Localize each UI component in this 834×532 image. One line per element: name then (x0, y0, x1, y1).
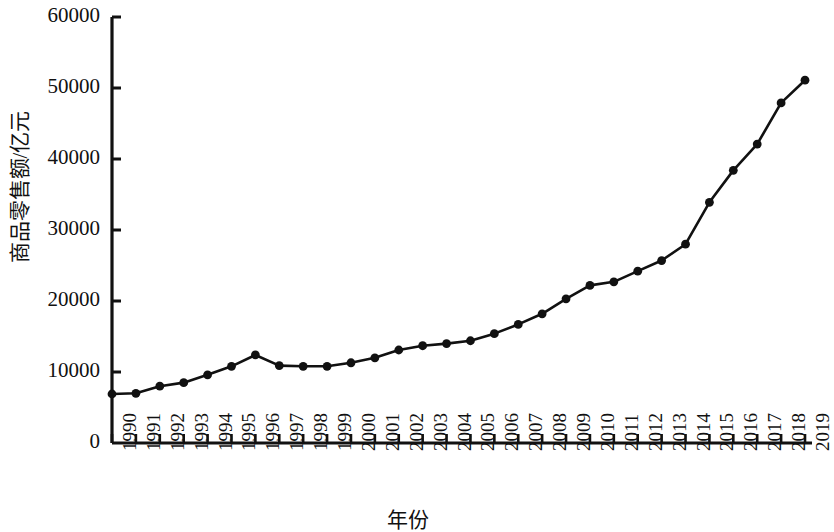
data-point (753, 140, 762, 149)
y-axis-title: 商品零售额/亿元 (3, 77, 33, 297)
y-axis-tick-label: 10000 (8, 358, 100, 383)
data-point (418, 341, 427, 350)
x-axis-tick-label: 2017 (764, 413, 786, 451)
x-axis-tick-label: 2019 (812, 413, 834, 451)
data-point (705, 198, 714, 207)
data-point (155, 382, 164, 391)
data-point (586, 281, 595, 290)
x-axis-tick-label: 2016 (740, 413, 762, 451)
x-axis-tick-label: 1992 (167, 413, 189, 451)
x-axis-tick-label: 2000 (358, 413, 380, 451)
x-axis-tick-label: 2007 (525, 413, 547, 451)
y-axis-tick-label: 60000 (8, 3, 100, 28)
data-point (801, 76, 810, 85)
data-point (203, 370, 212, 379)
data-point (370, 353, 379, 362)
x-axis-tick-label: 2003 (430, 413, 452, 451)
data-point (490, 329, 499, 338)
x-axis-tick-label: 2006 (501, 413, 523, 451)
x-axis-tick-label: 2001 (382, 413, 404, 451)
data-point (657, 256, 666, 265)
x-axis-tick-label: 2010 (597, 413, 619, 451)
x-axis-tick-label: 2011 (621, 414, 643, 451)
data-point (179, 378, 188, 387)
x-axis-tick-label: 1990 (119, 413, 141, 451)
x-axis-tick-label: 1999 (334, 413, 356, 451)
data-series-line (112, 80, 805, 394)
x-axis-tick-label: 2004 (454, 413, 476, 451)
x-axis-tick-label: 2013 (669, 413, 691, 451)
data-point (681, 240, 690, 249)
x-axis-tick-label: 1998 (310, 413, 332, 451)
data-point-markers (108, 76, 810, 399)
x-axis-tick-label: 2005 (477, 413, 499, 451)
data-point (132, 389, 141, 398)
data-point (394, 346, 403, 355)
y-axis-tick-label: 0 (8, 429, 100, 454)
data-point (323, 362, 332, 371)
x-axis-tick-label: 2012 (645, 413, 667, 451)
data-point (299, 362, 308, 371)
x-axis-tick-label: 2002 (406, 413, 428, 451)
x-axis-tick-label: 2009 (573, 413, 595, 451)
x-axis-tick-label: 1994 (215, 413, 237, 451)
x-axis-tick-label: 2014 (693, 413, 715, 451)
data-point (108, 390, 117, 399)
x-axis-tick-label: 1995 (238, 413, 260, 451)
data-point (251, 351, 260, 360)
x-axis-tick-label: 1997 (286, 413, 308, 451)
x-axis-tick-label: 2008 (549, 413, 571, 451)
data-point (347, 358, 356, 367)
data-point (633, 267, 642, 276)
data-point (514, 320, 523, 329)
data-point (609, 277, 618, 286)
data-point (275, 361, 284, 370)
x-axis-tick-label: 2015 (716, 413, 738, 451)
x-axis-title: 年份 (0, 503, 816, 532)
data-point (227, 362, 236, 371)
x-axis-tick-label: 1996 (262, 413, 284, 451)
x-axis-tick-label: 1993 (191, 413, 213, 451)
x-axis-tick-label: 2018 (788, 413, 810, 451)
chart-axes (112, 17, 812, 443)
data-point (538, 309, 547, 318)
data-point (729, 166, 738, 175)
data-point (562, 294, 571, 303)
data-point (442, 339, 451, 348)
data-point (466, 336, 475, 345)
x-axis-tick-label: 1991 (143, 413, 165, 451)
data-point (777, 99, 786, 108)
